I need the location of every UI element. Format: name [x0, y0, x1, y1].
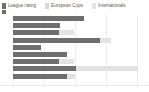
bar-row[interactable]	[13, 74, 75, 79]
bar-segment[interactable]	[13, 38, 100, 43]
bar-row[interactable]	[13, 16, 84, 21]
bar-segment[interactable]	[59, 30, 74, 35]
legend-item-european-cups[interactable]: European Cups	[45, 1, 83, 10]
axis-baseline	[0, 85, 149, 86]
bar-segment[interactable]	[67, 74, 75, 79]
legend-item-league-rating[interactable]: League rating	[2, 1, 36, 10]
bar-segment[interactable]	[76, 66, 138, 71]
legend-item-internationals[interactable]: Internationals	[92, 1, 126, 10]
bar-row[interactable]	[13, 38, 111, 43]
legend-swatch-icon	[2, 3, 6, 9]
gridline	[106, 15, 107, 85]
bar-segment[interactable]	[59, 59, 74, 64]
gridline	[137, 15, 138, 85]
bar-row[interactable]	[13, 23, 60, 28]
bar-segment[interactable]	[13, 45, 41, 50]
legend-label: Internationals	[98, 3, 126, 9]
bar-segment[interactable]	[13, 59, 59, 64]
bar-segment[interactable]	[13, 23, 60, 28]
bar-segment[interactable]	[13, 30, 59, 35]
legend-label: European Cups	[51, 3, 83, 9]
bar-segment[interactable]	[100, 38, 111, 43]
bar-row[interactable]	[13, 45, 41, 50]
bar-row[interactable]	[13, 59, 74, 64]
chart-legend: League rating European Cups Internationa…	[2, 1, 147, 10]
bar-chart: League rating European Cups Internationa…	[0, 0, 149, 92]
legend-label: League rating	[8, 3, 36, 9]
bar-segment[interactable]	[13, 52, 67, 57]
bar-segment[interactable]	[13, 16, 84, 21]
legend-swatch-icon	[45, 3, 49, 9]
bar-segment[interactable]	[13, 66, 76, 71]
bar-row[interactable]	[13, 30, 74, 35]
legend-swatch-icon	[92, 3, 96, 9]
bar-segment[interactable]	[13, 74, 67, 79]
plot-area	[0, 15, 149, 85]
bar-row[interactable]	[13, 52, 67, 57]
legend-overflow-swatch-icon	[2, 10, 6, 14]
bar-row[interactable]	[13, 66, 138, 71]
